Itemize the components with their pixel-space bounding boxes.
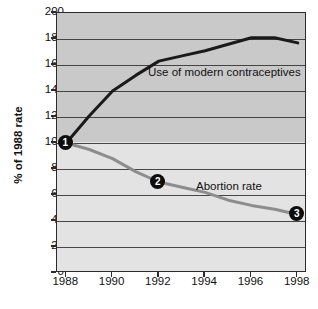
data-marker-1: 1 — [58, 135, 73, 150]
data-marker-2: 2 — [150, 174, 165, 189]
x-tick-label: 1996 — [228, 276, 272, 288]
series-label-abortion: Abortion rate — [196, 180, 262, 192]
x-tick-mark — [157, 272, 158, 277]
plot-area — [56, 12, 306, 272]
x-tick-label: 1992 — [136, 276, 180, 288]
x-tick-label: 1990 — [90, 276, 134, 288]
x-tick-label: 1988 — [43, 276, 87, 288]
series-line-abortion — [66, 143, 297, 215]
series-label-contraceptives: Use of modern contraceptives — [148, 66, 301, 78]
y-axis-title: % of 1988 rate — [12, 80, 24, 210]
x-tick-label: 1998 — [275, 276, 318, 288]
x-tick-label: 1994 — [182, 276, 226, 288]
x-tick-mark — [111, 272, 112, 277]
x-tick-mark — [203, 272, 204, 277]
series-line-contraceptives — [66, 38, 297, 143]
line-chart: % of 1988 rate 0204060801001201401601802… — [0, 0, 318, 309]
x-tick-mark — [296, 272, 297, 277]
x-tick-mark — [250, 272, 251, 277]
series-lines — [57, 13, 306, 272]
x-tick-mark — [65, 272, 66, 277]
